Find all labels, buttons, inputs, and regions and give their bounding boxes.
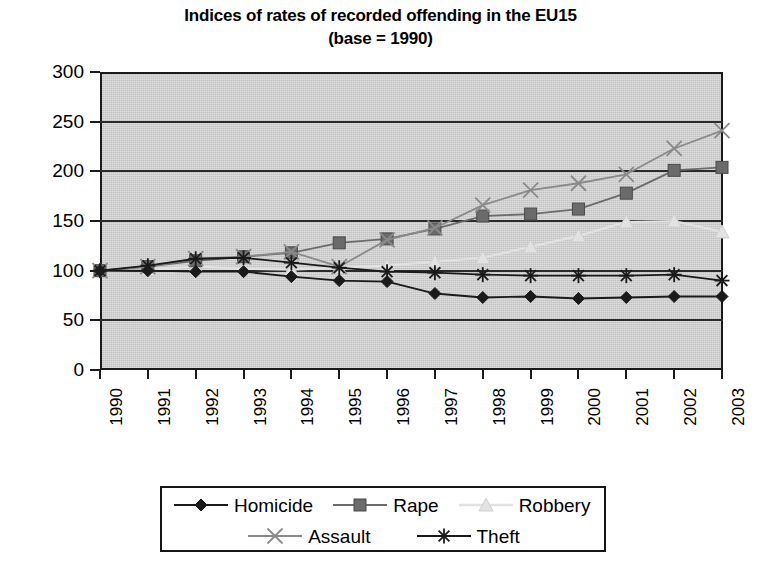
legend-marker-homicide bbox=[172, 494, 230, 516]
series-assault bbox=[93, 123, 730, 278]
y-axis-tick-label: 150 bbox=[22, 211, 84, 230]
y-axis-tick-mark bbox=[90, 121, 100, 123]
data-point-marker-filled-square bbox=[716, 161, 728, 173]
legend-entry-assault[interactable]: Assault bbox=[246, 525, 370, 547]
legend-entry-theft[interactable]: Theft bbox=[415, 525, 520, 547]
legend-key-asterisk bbox=[415, 525, 473, 547]
legend-key-cross-x bbox=[246, 525, 304, 547]
y-axis-tick-label: 300 bbox=[22, 62, 84, 81]
x-axis-tick-mark bbox=[482, 370, 484, 379]
data-point-marker-cross-x bbox=[715, 123, 730, 138]
x-axis-tick-mark bbox=[577, 370, 579, 379]
x-axis-tick-mark bbox=[673, 370, 675, 379]
data-point-marker-asterisk bbox=[236, 250, 251, 265]
chart-container: Indices of rates of recorded offending i… bbox=[0, 0, 761, 564]
legend-marker-theft bbox=[415, 525, 473, 547]
x-axis-tick-mark bbox=[338, 370, 340, 379]
data-point-marker-filled-square bbox=[668, 164, 680, 176]
data-point-marker-asterisk bbox=[475, 267, 490, 282]
x-axis-tick-mark bbox=[434, 370, 436, 379]
data-point-marker-filled-diamond bbox=[525, 290, 537, 302]
legend-marker-assault bbox=[246, 525, 304, 547]
legend-row-secondary: AssaultTheft bbox=[162, 521, 604, 551]
x-axis-tick-label: 1994 bbox=[299, 388, 316, 426]
legend-marker-robbery bbox=[457, 494, 515, 516]
x-axis-tick-mark bbox=[243, 370, 245, 379]
data-point-marker-asterisk bbox=[188, 251, 203, 266]
chart-title-line-1: Indices of rates of recorded offending i… bbox=[0, 4, 761, 27]
x-axis-tick-label: 2003 bbox=[730, 388, 747, 426]
data-point-marker-cross-x bbox=[667, 141, 682, 156]
x-axis-tick-mark bbox=[290, 370, 292, 379]
chart-title: Indices of rates of recorded offending i… bbox=[0, 4, 761, 50]
series-layer bbox=[100, 72, 723, 370]
series-robbery bbox=[93, 214, 729, 277]
series-theft bbox=[93, 250, 730, 288]
series-homicide bbox=[94, 265, 728, 305]
y-axis-tick-mark bbox=[90, 319, 100, 321]
x-axis-tick-label: 1990 bbox=[108, 388, 125, 426]
x-axis-tick-mark bbox=[530, 370, 532, 379]
data-point-marker-asterisk bbox=[667, 267, 682, 282]
legend-label: Robbery bbox=[519, 496, 591, 515]
data-point-marker-filled-diamond bbox=[477, 291, 489, 303]
data-point-marker-filled-square bbox=[477, 210, 489, 222]
data-point-marker-filled-square bbox=[333, 237, 345, 249]
y-axis-tick-label: 100 bbox=[22, 261, 84, 280]
legend-row-primary: HomicideRapeRobbery bbox=[162, 490, 614, 520]
data-point-marker-filled-square bbox=[572, 203, 584, 215]
legend-entry-homicide[interactable]: Homicide bbox=[172, 494, 313, 516]
x-axis-tick-mark bbox=[625, 370, 627, 379]
data-point-marker-cross-x bbox=[619, 167, 634, 182]
x-axis-tick-label: 1993 bbox=[252, 388, 269, 426]
x-axis-tick-label: 1999 bbox=[539, 388, 556, 426]
data-point-marker-asterisk bbox=[427, 265, 442, 280]
x-axis-tick-mark bbox=[99, 370, 101, 379]
data-point-marker-filled-diamond bbox=[333, 275, 345, 287]
data-point-marker-asterisk bbox=[436, 529, 451, 544]
legend-key-filled-square bbox=[331, 494, 389, 516]
x-axis-tick-label: 2002 bbox=[682, 388, 699, 426]
data-point-marker-asterisk bbox=[332, 260, 347, 275]
data-point-marker-filled-diamond bbox=[195, 499, 207, 511]
x-axis-tick-mark bbox=[721, 370, 723, 379]
y-axis-tick-mark bbox=[90, 220, 100, 222]
x-axis-tick-mark bbox=[195, 370, 197, 379]
data-point-marker-filled-diamond bbox=[668, 290, 680, 302]
legend-key-filled-triangle bbox=[457, 494, 515, 516]
data-point-marker-filled-diamond bbox=[572, 292, 584, 304]
legend-label: Homicide bbox=[234, 496, 313, 515]
data-point-marker-filled-diamond bbox=[381, 276, 393, 288]
data-point-marker-filled-square bbox=[354, 499, 366, 511]
x-axis-tick-label: 1998 bbox=[491, 388, 508, 426]
data-point-marker-asterisk bbox=[619, 268, 634, 283]
y-axis-tick-label: 200 bbox=[22, 161, 84, 180]
x-axis-tick-label: 1996 bbox=[395, 388, 412, 426]
data-point-marker-filled-square bbox=[525, 208, 537, 220]
legend-entry-rape[interactable]: Rape bbox=[331, 494, 438, 516]
x-axis-tick-mark bbox=[386, 370, 388, 379]
y-axis-tick-label: 50 bbox=[22, 310, 84, 329]
legend-label: Theft bbox=[477, 527, 520, 546]
data-point-marker-filled-diamond bbox=[620, 291, 632, 303]
legend-key-filled-diamond bbox=[172, 494, 230, 516]
x-axis-tick-label: 2000 bbox=[586, 388, 603, 426]
chart-legend: HomicideRapeRobbery AssaultTheft bbox=[160, 486, 606, 552]
y-axis-tick-label: 0 bbox=[22, 360, 84, 379]
legend-entry-robbery[interactable]: Robbery bbox=[457, 494, 591, 516]
x-axis-tick-label: 1991 bbox=[156, 388, 173, 426]
x-axis-tick-label: 1995 bbox=[347, 388, 364, 426]
data-point-marker-filled-diamond bbox=[716, 290, 728, 302]
legend-marker-rape bbox=[331, 494, 389, 516]
data-point-marker-filled-square bbox=[620, 187, 632, 199]
chart-title-line-2: (base = 1990) bbox=[0, 27, 761, 50]
data-point-marker-asterisk bbox=[715, 273, 730, 288]
data-point-marker-filled-diamond bbox=[429, 288, 441, 300]
data-point-marker-asterisk bbox=[571, 268, 586, 283]
y-axis-tick-label: 250 bbox=[22, 112, 84, 131]
y-axis-tick-mark bbox=[90, 71, 100, 73]
x-axis-tick-label: 1997 bbox=[443, 388, 460, 426]
x-axis-tick-mark bbox=[147, 370, 149, 379]
legend-label: Rape bbox=[393, 496, 438, 515]
data-point-marker-asterisk bbox=[523, 268, 538, 283]
